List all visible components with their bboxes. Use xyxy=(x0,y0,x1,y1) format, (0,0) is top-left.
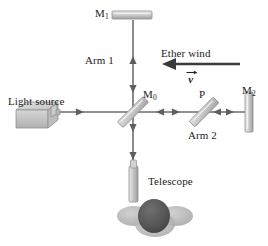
label-mirror-2: M2 xyxy=(242,85,256,96)
label-mirror-2-subscript: 2 xyxy=(252,89,256,98)
mirror-1 xyxy=(112,11,152,19)
arrowhead-arm1-down xyxy=(129,85,136,93)
label-arm-1: Arm 1 xyxy=(85,55,114,66)
arrowhead-arm2-left-a xyxy=(156,108,164,115)
telescope xyxy=(129,160,138,202)
label-mirror-0: M0 xyxy=(143,89,157,100)
michelson-interferometer-figure: M1 Arm 1 Ether wind v M0 P M2 Light sour… xyxy=(0,0,268,246)
light-source-front-face xyxy=(16,110,48,128)
label-arm-2: Arm 2 xyxy=(188,130,217,141)
observer xyxy=(117,199,193,237)
arrowhead-arm2-right-b xyxy=(226,108,234,115)
label-mirror-0-subscript: 0 xyxy=(153,93,157,102)
observer-head xyxy=(138,199,170,233)
arrowhead-telescope-down-b xyxy=(129,152,136,160)
ether-wind-arrowhead xyxy=(162,58,176,70)
arrowhead-source-right xyxy=(76,108,84,115)
telescope-eyepiece xyxy=(131,160,137,168)
velocity-letter: v xyxy=(188,73,193,85)
arrowhead-arm2-right-a xyxy=(172,108,180,115)
label-telescope: Telescope xyxy=(148,176,193,187)
velocity-vector-glyph: v xyxy=(185,70,198,84)
label-mirror-1-subscript: 1 xyxy=(105,12,109,21)
label-ether-wind: Ether wind xyxy=(161,48,211,59)
arrowhead-telescope-down-a xyxy=(129,124,136,132)
label-mirror-0-text: M xyxy=(143,88,153,100)
label-mirror-1-text: M xyxy=(95,7,105,19)
label-mirror-2-text: M xyxy=(242,84,252,96)
arrowhead-arm2-left-b xyxy=(213,108,221,115)
label-plate-p: P xyxy=(199,89,205,100)
label-mirror-1: M1 xyxy=(95,8,109,19)
ether-wind-arrow xyxy=(162,58,240,70)
figure-canvas xyxy=(0,0,268,246)
label-light-source: Light source xyxy=(8,96,65,107)
telescope-tube xyxy=(129,166,138,202)
arrowhead-arm1-up xyxy=(129,56,136,64)
mirror-2-body xyxy=(245,92,253,132)
mirror-1-body xyxy=(112,11,152,19)
light-source-aperture xyxy=(56,109,60,115)
mirror-2 xyxy=(245,92,253,132)
